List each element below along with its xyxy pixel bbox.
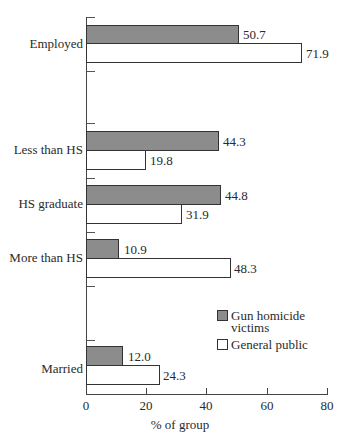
value-label: 24.3	[163, 368, 186, 384]
y-tick	[87, 286, 95, 287]
value-label: 19.8	[150, 153, 173, 169]
category-label-hs-graduate: HS graduate	[18, 196, 83, 212]
value-label: 48.3	[234, 261, 257, 277]
value-label: 44.8	[225, 188, 248, 204]
value-label: 50.7	[243, 27, 266, 43]
legend-swatch-public	[217, 339, 228, 350]
bar-public-less-than-hs	[86, 150, 146, 170]
legend-label-public: General public	[231, 339, 308, 351]
y-tick	[87, 340, 95, 341]
y-tick	[87, 232, 95, 233]
category-label-married: Married	[41, 361, 83, 377]
value-label: 31.9	[186, 207, 209, 223]
legend-swatch-victims	[217, 310, 228, 321]
bar-public-employed	[86, 43, 302, 63]
x-tick-label: 0	[71, 398, 101, 414]
x-axis-title: % of group	[125, 417, 235, 433]
value-label: 12.0	[128, 349, 151, 365]
x-tick-label: 40	[191, 398, 221, 414]
y-tick	[87, 123, 95, 124]
x-tick-label: 20	[131, 398, 161, 414]
y-tick	[87, 71, 95, 72]
x-axis-line	[86, 394, 328, 395]
category-label-less-than-hs: Less than HS	[14, 142, 83, 158]
bar-public-more-than-hs	[86, 258, 231, 278]
legend-label-victims: Gun homicide victims	[231, 310, 305, 334]
x-tick	[206, 388, 207, 394]
bar-victims-hs-graduate	[86, 185, 221, 205]
x-tick-label: 80	[312, 398, 342, 414]
category-label-more-than-hs: More than HS	[9, 250, 83, 266]
category-label-employed: Employed	[30, 36, 83, 52]
value-label: 71.9	[306, 46, 329, 62]
bar-victims-married	[86, 346, 123, 366]
bar-public-married	[86, 365, 160, 385]
legend-label-victims-line2: victims	[231, 322, 305, 334]
bar-victims-employed	[86, 25, 239, 44]
bar-victims-more-than-hs	[86, 239, 119, 259]
value-label: 44.3	[223, 134, 246, 150]
bar-victims-less-than-hs	[86, 131, 219, 151]
bar-public-hs-graduate	[86, 204, 182, 224]
x-tick	[146, 388, 147, 394]
y-tick	[87, 17, 95, 18]
y-tick	[87, 178, 95, 179]
x-tick	[267, 388, 268, 394]
x-tick	[86, 388, 87, 394]
value-label: 10.9	[124, 242, 147, 258]
x-tick	[327, 388, 328, 394]
x-tick-label: 60	[252, 398, 282, 414]
